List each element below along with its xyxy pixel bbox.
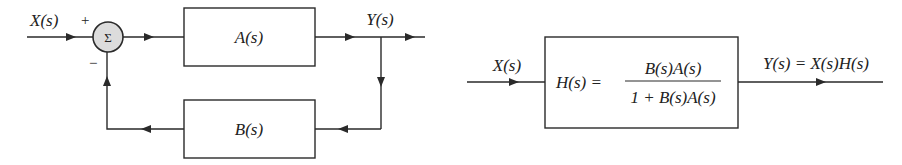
sigma-symbol: Σ xyxy=(104,30,112,45)
output-arrow-icon xyxy=(345,33,355,41)
h-lhs: H(s) = xyxy=(555,73,602,92)
left-output-label: Y(s) xyxy=(366,10,394,29)
minus-sign: − xyxy=(89,55,97,71)
branch-down-arrow-icon xyxy=(377,77,385,87)
h-denominator: 1 + B(s)A(s) xyxy=(630,88,715,107)
block-a-label: A(s) xyxy=(234,28,264,47)
input-arrow-icon xyxy=(66,33,76,41)
error-arrow-icon xyxy=(144,33,154,41)
block-diagrams: X(s) + − Σ A(s) B(s) Y(s) X(s) H(s) = B(… xyxy=(0,0,902,165)
right-input-label: X(s) xyxy=(492,56,522,75)
plus-sign: + xyxy=(81,12,89,28)
right-output-label: Y(s) = X(s)H(s) xyxy=(763,54,869,73)
feedback-return-line xyxy=(107,52,184,129)
feedback-loop-diagram xyxy=(27,8,425,158)
feedback-up-arrow-icon xyxy=(103,76,111,86)
output-arrow-icon-2 xyxy=(405,33,415,41)
left-input-label: X(s) xyxy=(29,11,59,30)
equiv-input-arrow-icon xyxy=(509,78,519,86)
feedback-left-arrow-icon xyxy=(141,125,151,133)
equiv-output-arrow-icon xyxy=(816,78,826,86)
block-b-label: B(s) xyxy=(235,120,264,139)
feedback-in-arrow-icon xyxy=(338,125,348,133)
equivalent-block-diagram xyxy=(467,37,883,128)
h-numerator: B(s)A(s) xyxy=(645,59,702,78)
